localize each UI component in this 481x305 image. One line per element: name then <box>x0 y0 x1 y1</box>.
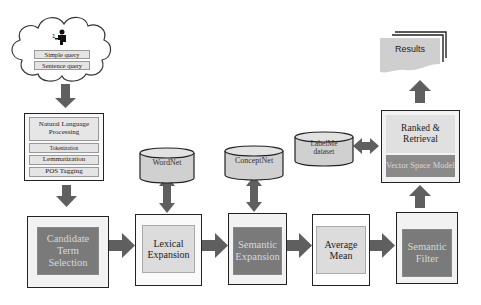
pipeline-box-average: Average Mean <box>312 214 370 286</box>
lexical-expansion-label: Lexical Expansion <box>142 225 195 273</box>
semantic-expansion-label: Semantic Expansion <box>233 227 282 275</box>
nlp-step-tokenization: Tokenization <box>29 143 99 153</box>
double-arrow-horizontal-icon <box>353 138 379 154</box>
conceptnet-label: ConceptNet <box>225 157 283 165</box>
double-arrow-vertical-icon <box>246 176 262 212</box>
pipeline-box-candidate: Candidate Term Selection <box>27 216 109 288</box>
pipeline-box-semantic-expansion: Semantic Expansion <box>228 213 287 285</box>
pipeline-box-semantic-filter: Semantic Filter <box>396 212 458 284</box>
results-label: Results <box>380 44 440 54</box>
wordnet-label: WordNet <box>140 159 194 167</box>
nlp-step-pos-tagging: POS Tagging <box>29 167 99 177</box>
pipeline-box-lexical: Lexical Expansion <box>135 214 202 286</box>
arrow-right-icon <box>202 233 228 258</box>
arrow-down-icon <box>56 185 77 207</box>
simple-query-option: Simple query <box>34 50 90 59</box>
arrow-up-icon <box>409 80 431 103</box>
nlp-title: Natural Language Processing <box>29 117 99 141</box>
ranking-block: Ranked & Retrieval Vector Space Model <box>381 110 460 183</box>
candidate-term-selection-label: Candidate Term Selection <box>37 227 99 275</box>
arrow-down-icon <box>55 84 76 108</box>
nlp-block: Natural Language Processing Tokenization… <box>24 113 104 181</box>
nlp-step-lemmatization: Lemmatization <box>29 155 99 165</box>
average-mean-label: Average Mean <box>316 226 366 274</box>
ranked-retrieval-label: Ranked & Retrieval <box>386 115 455 153</box>
vector-space-model-label: Vector Space Model <box>386 155 455 177</box>
user-at-desk-icon: 1 <box>44 26 78 48</box>
labelme-dataset-label: LabelMe dataset <box>300 140 348 156</box>
arrow-right-icon <box>370 233 395 258</box>
sentence-query-option: Sentence query <box>34 61 90 70</box>
arrow-right-icon <box>287 233 312 258</box>
diagram-canvas: 1 <box>0 0 481 305</box>
semantic-filter-label: Semantic Filter <box>402 229 452 277</box>
arrow-up-icon <box>409 185 431 208</box>
arrow-right-icon <box>109 233 135 258</box>
